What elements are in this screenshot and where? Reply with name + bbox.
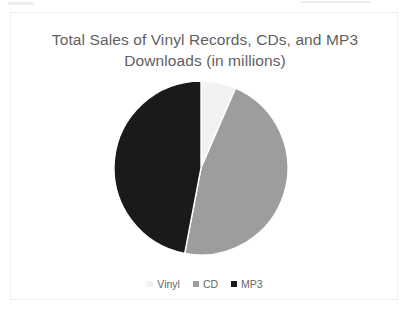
legend-label: MP3 bbox=[241, 278, 263, 290]
scan-artifact-top-left bbox=[8, 2, 34, 5]
pie-slices-group bbox=[114, 81, 288, 255]
chart-card: Total Sales of Vinyl Records, CDs, and M… bbox=[10, 12, 398, 300]
legend-swatch-mp3-icon bbox=[231, 281, 237, 287]
pie-slice-mp3[interactable] bbox=[114, 81, 201, 253]
legend-label: Vinyl bbox=[157, 278, 180, 290]
legend-label: CD bbox=[203, 278, 218, 290]
pie-chart-svg bbox=[111, 78, 291, 258]
chart-legend: VinylCDMP3 bbox=[11, 278, 399, 290]
pie-plot-area bbox=[11, 13, 399, 301]
legend-swatch-vinyl-icon bbox=[147, 281, 153, 287]
legend-swatch-cd-icon bbox=[193, 281, 199, 287]
legend-item-vinyl[interactable]: Vinyl bbox=[147, 278, 180, 290]
legend-item-mp3[interactable]: MP3 bbox=[231, 278, 263, 290]
scan-artifact-top-right bbox=[300, 1, 370, 3]
legend-item-cd[interactable]: CD bbox=[193, 278, 218, 290]
